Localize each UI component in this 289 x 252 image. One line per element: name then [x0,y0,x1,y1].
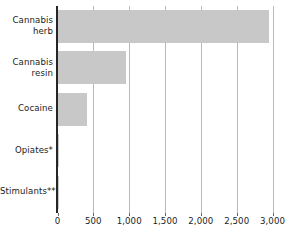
category-label-stimulants: Stimulants** [0,186,53,197]
y-axis-line [56,6,58,213]
bar-row [58,6,273,47]
bar-chart: Cannabis herb Cannabis resin Cocaine Opi… [0,0,289,252]
bar-row [58,47,273,88]
category-label-cocaine: Cocaine [0,103,53,114]
bar-cocaine[interactable] [58,93,87,126]
category-label-line: herb [0,26,53,37]
category-label-line: Cannabis [0,15,53,26]
x-tick-label-1000: 1,000 [117,216,142,226]
x-tick-label-2000: 2,000 [188,216,213,226]
category-label-cannabis-herb: Cannabis herb [0,15,53,37]
bar-cannabis-resin[interactable] [58,51,126,84]
x-tick-label-2500: 2,500 [224,216,249,226]
bar-row [58,172,273,213]
x-tick-label-1500: 1,500 [152,216,177,226]
bar-row [58,130,273,171]
bar-row [58,89,273,130]
bar-cannabis-herb[interactable] [58,10,269,43]
x-tick-label-500: 500 [85,216,102,226]
category-label-line: Cannabis [0,57,53,68]
plot-area [58,6,273,213]
category-label-line: resin [0,68,53,79]
category-label-cannabis-resin: Cannabis resin [0,57,53,79]
category-label-line: Cocaine [0,103,53,114]
category-label-opiates: Opiates* [0,145,53,156]
x-tick-label-3000: 3,000 [260,216,285,226]
category-label-line: Opiates* [0,145,53,156]
gridline-3000 [273,6,274,213]
category-label-line: Stimulants** [0,186,53,197]
x-tick-label-0: 0 [55,216,61,226]
